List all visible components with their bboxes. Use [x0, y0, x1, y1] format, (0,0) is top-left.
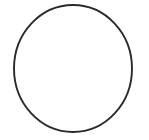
shape-layer — [0, 0, 149, 140]
drawing-canvas — [0, 0, 149, 140]
canvas-background — [0, 0, 149, 140]
